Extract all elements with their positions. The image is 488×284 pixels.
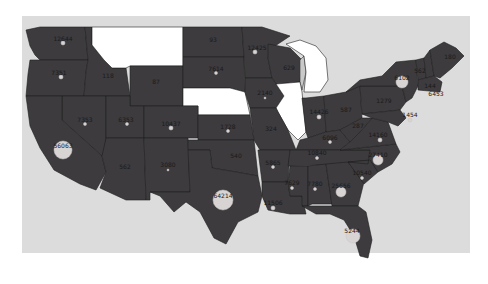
marker-ma[interactable]: 6453 — [428, 90, 443, 97]
marker-id[interactable]: 118 — [102, 72, 114, 79]
label-ks: 1728 — [220, 123, 235, 130]
label-ms: 7629 — [284, 179, 299, 186]
label-va: 14160 — [368, 131, 387, 138]
marker-al[interactable]: 7780 — [307, 180, 322, 191]
label-sd: 7614 — [208, 65, 223, 72]
marker-nc[interactable]: 27410 — [368, 151, 387, 165]
marker-nv[interactable]: 7353 — [77, 116, 92, 126]
marker-ar[interactable]: 5865 — [265, 159, 280, 169]
marker-nd[interactable]: 93 — [209, 36, 217, 43]
marker-la[interactable]: 11506 — [263, 199, 282, 210]
label-ca: 56063 — [53, 142, 72, 149]
marker-wy[interactable]: 87 — [152, 78, 160, 85]
marker-in[interactable]: 14426 — [309, 108, 328, 119]
label-me: 180 — [444, 53, 456, 60]
label-wi: 629 — [283, 64, 295, 71]
marker-wa[interactable]: 12644 — [53, 35, 72, 45]
marker-vt[interactable]: 562 — [414, 67, 426, 74]
marker-nh[interactable]: 144 — [424, 82, 436, 89]
marker-md[interactable]: 1454 — [402, 111, 417, 122]
marker-ut[interactable]: 6353 — [118, 116, 133, 126]
marker-oh[interactable]: 587 — [340, 106, 352, 113]
marker-sc[interactable]: 10540 — [352, 169, 371, 180]
marker-fl[interactable]: 5244 — [344, 227, 360, 243]
label-vt: 562 — [414, 67, 426, 74]
label-ky: 6096 — [322, 134, 337, 141]
marker-sd[interactable]: 7614 — [208, 65, 223, 75]
label-id: 118 — [102, 72, 114, 79]
marker-va[interactable]: 14160 — [368, 131, 387, 142]
label-nh: 144 — [424, 82, 436, 89]
marker-ny[interactable]: 6102 — [394, 74, 409, 88]
marker-ms[interactable]: 7629 — [284, 179, 299, 190]
marker-mo[interactable]: 324 — [265, 125, 277, 132]
label-ar: 5865 — [265, 159, 280, 166]
label-nc: 27410 — [368, 151, 387, 158]
marker-tx[interactable]: 64214 — [213, 190, 233, 210]
label-md: 1454 — [402, 111, 417, 118]
label-pa: 1279 — [376, 97, 391, 104]
label-fl: 5244 — [344, 227, 359, 234]
label-tx: 64214 — [213, 192, 232, 199]
marker-tn[interactable]: 10840 — [307, 149, 326, 160]
label-ga: 25656 — [331, 182, 350, 189]
marker-ca[interactable]: 56063 — [53, 141, 72, 159]
label-ia: 2140 — [257, 89, 272, 96]
marker-mn[interactable]: 12425 — [247, 44, 266, 54]
label-la: 11506 — [263, 199, 282, 206]
label-ma: 6453 — [428, 90, 443, 97]
marker-ky[interactable]: 6096 — [322, 134, 337, 144]
marker-pa[interactable]: 1279 — [376, 97, 391, 104]
marker-az[interactable]: 562 — [119, 163, 131, 170]
label-oh: 587 — [340, 106, 352, 113]
marker-ok[interactable]: 540 — [230, 152, 242, 159]
label-al: 7780 — [307, 180, 322, 187]
marker-ia[interactable]: 2140 — [257, 89, 272, 99]
label-nm: 3080 — [160, 161, 175, 168]
label-nv: 7353 — [77, 116, 92, 123]
label-ny: 6102 — [394, 74, 409, 81]
label-wv: 287 — [352, 122, 364, 129]
label-co: 10437 — [161, 120, 180, 127]
label-sc: 10540 — [352, 169, 371, 176]
label-wy: 87 — [152, 78, 160, 85]
marker-nm[interactable]: 3080 — [160, 161, 175, 171]
label-or: 7351 — [51, 69, 66, 76]
marker-wi[interactable]: 629 — [283, 64, 295, 71]
marker-ks[interactable]: 1728 — [220, 123, 235, 133]
marker-me[interactable]: 180 — [444, 53, 456, 60]
label-wa: 12644 — [53, 35, 72, 42]
label-az: 562 — [119, 163, 131, 170]
label-tn: 10840 — [307, 149, 326, 156]
label-ut: 6353 — [118, 116, 133, 123]
label-nd: 93 — [209, 36, 217, 43]
marker-or[interactable]: 7351 — [51, 69, 66, 79]
marker-co[interactable]: 10437 — [161, 120, 180, 130]
label-mo: 324 — [265, 125, 277, 132]
marker-ga[interactable]: 25656 — [331, 182, 350, 197]
marker-layer: 12644 7351 118 87 93 7614 12425 629 2140… — [0, 0, 488, 284]
label-mn: 12425 — [247, 44, 266, 51]
label-ok: 540 — [230, 152, 242, 159]
marker-wv[interactable]: 287 — [352, 122, 364, 129]
label-in: 14426 — [309, 108, 328, 115]
